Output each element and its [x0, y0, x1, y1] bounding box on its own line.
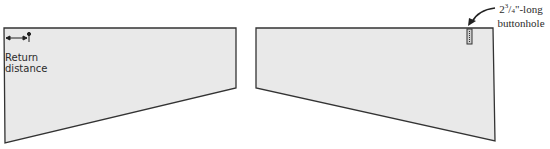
return-label-line1: Return	[5, 52, 65, 63]
diagram-canvas	[0, 0, 550, 149]
callout-line1: 23/4"-long	[492, 3, 550, 17]
return-distance-label: Return distance	[5, 52, 65, 74]
callout-suffix: "-long	[515, 3, 543, 15]
return-label-line2: distance	[5, 63, 65, 74]
callout-arrow-icon	[468, 8, 495, 26]
callout-line2: buttonhole	[492, 17, 550, 29]
right-panel	[256, 28, 495, 141]
left-panel	[4, 28, 236, 143]
callout-frac-num: 3	[505, 2, 509, 10]
buttonhole-callout-label: 23/4"-long buttonhole	[492, 3, 550, 29]
buttonhole-icon	[467, 29, 472, 44]
